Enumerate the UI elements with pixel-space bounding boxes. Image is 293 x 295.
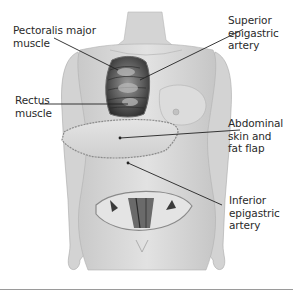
label-pectoralis-major-muscle: Pectoralis major muscle	[13, 24, 96, 49]
label-superior-epigastric-artery: Superior epigastric artery	[228, 14, 279, 52]
label-inferior-epigastric-artery: Inferior epigastric artery	[229, 194, 280, 232]
label-abdominal-skin-and-fat-flap: Abdominal skin and fat flap	[228, 117, 283, 155]
anatomy-diagram: Pectoralis major muscle Rectus muscle Su…	[0, 0, 293, 295]
label-rectus-muscle: Rectus muscle	[15, 94, 52, 119]
neck	[114, 12, 176, 48]
nipple	[173, 109, 179, 115]
bottom-divider	[0, 289, 293, 290]
